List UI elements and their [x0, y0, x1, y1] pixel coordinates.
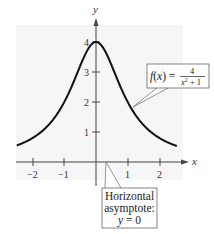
y-axis-arrow-icon [94, 18, 99, 26]
x-tick-label: −1 [58, 169, 69, 180]
x-tick-label: 2 [157, 169, 162, 180]
y-tick-label: 2 [84, 97, 89, 108]
x-axis-label: x [191, 155, 197, 167]
y-tick-label: 4 [84, 37, 89, 48]
x-tick-label: −2 [27, 169, 38, 180]
function-graph: y x −2 −1 1 2 1 2 3 4 f(x) = 4 x2 + 1 [0, 0, 214, 234]
y-tick-label: 3 [84, 67, 89, 78]
function-denominator: x2 + 1 [180, 77, 201, 87]
x-axis-arrow-icon [181, 160, 189, 165]
y-tick-label: 1 [84, 127, 89, 138]
function-label: f(x) = [150, 70, 175, 83]
x-tick-label: 1 [125, 169, 130, 180]
asymptote-label-line3: y = 0 [117, 214, 141, 227]
y-axis-label: y [92, 3, 98, 15]
asymptote-label-line1: Horizontal [105, 190, 154, 202]
